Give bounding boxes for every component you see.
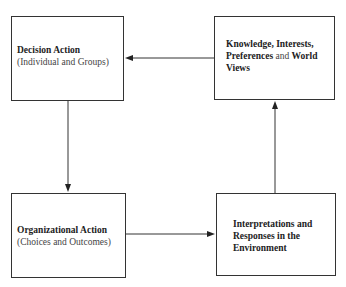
arrow-organizational-to-interpretations: [126, 231, 215, 237]
connector-arrows: [0, 0, 346, 287]
arrow-knowledge-to-decision: [125, 55, 214, 61]
arrow-decision-to-organizational: [65, 101, 71, 192]
arrow-interpretations-to-knowledge: [272, 101, 278, 193]
